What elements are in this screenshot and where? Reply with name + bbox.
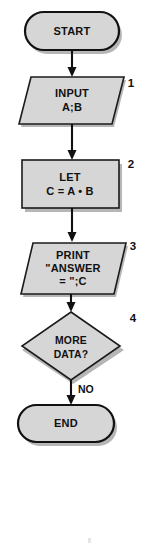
flowchart-page: START INPUT A;B 1 LET C = A • B 2 bbox=[0, 0, 146, 547]
step-number-1: 1 bbox=[128, 77, 135, 89]
step-number-3: 3 bbox=[130, 240, 136, 252]
arrow-head-icon bbox=[68, 232, 77, 242]
decision-shape bbox=[22, 312, 120, 380]
node-decision[interactable]: MORE DATA? 4 bbox=[22, 312, 137, 384]
arrow-head-icon bbox=[67, 302, 76, 312]
node-end[interactable]: END bbox=[18, 405, 117, 446]
decision-label-line2: DATA? bbox=[54, 349, 89, 360]
connector-input-to-let bbox=[68, 124, 77, 160]
flowchart-canvas: START INPUT A;B 1 LET C = A • B 2 bbox=[0, 0, 146, 547]
arrow-head-icon bbox=[68, 67, 77, 77]
print-label-line2: "ANSWER bbox=[45, 262, 101, 274]
input-label-line1: INPUT bbox=[55, 87, 89, 99]
connector-start-to-input bbox=[68, 50, 77, 77]
arrow-head-icon bbox=[67, 395, 76, 405]
scan-artifact bbox=[88, 538, 91, 543]
decision-label-line1: MORE bbox=[55, 335, 87, 346]
connector-let-to-print bbox=[68, 208, 77, 242]
start-label: START bbox=[54, 25, 91, 37]
let-label-line1: LET bbox=[59, 171, 80, 183]
arrow-head-icon bbox=[68, 150, 77, 160]
input-label-line2: A;B bbox=[62, 101, 82, 113]
branch-label-no: NO bbox=[78, 383, 94, 395]
node-start[interactable]: START bbox=[25, 12, 122, 54]
node-print[interactable]: PRINT "ANSWER = ";C 3 bbox=[21, 240, 136, 297]
step-number-2: 2 bbox=[128, 158, 134, 170]
let-label-line2: C = A • B bbox=[46, 185, 93, 197]
print-label-line1: PRINT bbox=[56, 249, 90, 261]
node-let[interactable]: LET C = A • B 2 bbox=[22, 158, 134, 212]
end-label: END bbox=[54, 417, 78, 429]
connector-decision-to-end: NO bbox=[67, 380, 94, 405]
node-input[interactable]: INPUT A;B 1 bbox=[19, 77, 135, 127]
print-label-line3: = ";C bbox=[59, 275, 86, 287]
step-number-4: 4 bbox=[130, 312, 137, 324]
